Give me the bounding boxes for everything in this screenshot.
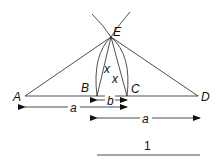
label-e: E <box>113 25 122 39</box>
arc-top-left <box>92 14 111 37</box>
label-seg-a-left: a <box>70 101 77 115</box>
angle-x-2: x <box>111 72 119 86</box>
label-seg-a-right: a <box>142 112 149 126</box>
label-d: D <box>201 90 210 104</box>
scale-label: 1 <box>144 139 151 153</box>
geometry-diagram: E A B C D x x b a a 1 <box>0 0 219 168</box>
label-c: C <box>131 82 140 96</box>
label-b: B <box>81 81 89 95</box>
label-seg-b: b <box>107 94 114 108</box>
line-de <box>111 37 198 96</box>
line-ae <box>25 37 111 96</box>
angle-x-1: x <box>103 62 111 76</box>
label-a: A <box>12 90 21 104</box>
